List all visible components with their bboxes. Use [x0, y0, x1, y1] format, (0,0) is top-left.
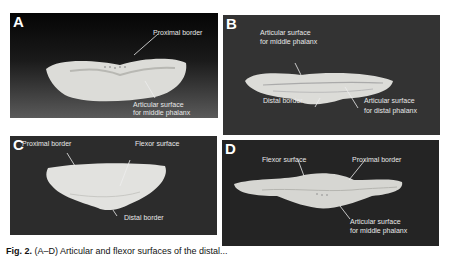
figure-panel-c: C Proximal border Flexor surface Distal … — [10, 136, 217, 235]
panel-letter: B — [226, 15, 237, 32]
label-distal-border: Distal border — [263, 97, 303, 105]
leader-lines — [10, 136, 217, 235]
figure-panel-d: D Flexor surface Proximal border Articul… — [222, 140, 439, 246]
panel-letter: A — [13, 13, 24, 30]
figure-panel-b: B Articular surface for middle phalanx D… — [223, 15, 440, 135]
label-articular-surface-distal: Articular surface — [364, 97, 415, 105]
leader-lines — [223, 15, 440, 135]
label-flexor-surface: Flexor surface — [135, 140, 179, 148]
label-flexor-surface: Flexor surface — [262, 156, 306, 164]
label-proximal-border: Proximal border — [352, 156, 401, 164]
figure-caption: Fig. 2. (A–D) Articular and flexor surfa… — [6, 246, 228, 256]
label-for-distal-phalanx: for distal phalanx — [364, 107, 417, 115]
figure-panel-a: A Proximal border Articular surface for … — [10, 13, 218, 118]
caption-label: Fig. 2. — [6, 246, 32, 256]
label-articular-surface-middle: Articular surface — [260, 29, 311, 37]
label-articular-surface: Articular surface — [133, 101, 184, 109]
panel-letter: D — [225, 140, 236, 157]
label-proximal-border: Proximal border — [153, 29, 202, 37]
label-for-middle-phalanx: for middle phalanx — [133, 109, 190, 117]
label-articular-surface: Articular surface — [350, 218, 401, 226]
label-distal-border: Distal border — [124, 214, 164, 222]
label-proximal-border: Proximal border — [22, 140, 71, 148]
label-for-middle-phalanx: for middle phalanx — [260, 38, 317, 46]
label-for-middle-phalanx: for middle phalanx — [350, 227, 407, 235]
caption-text: (A–D) Articular and flexor surfaces of t… — [35, 246, 228, 256]
